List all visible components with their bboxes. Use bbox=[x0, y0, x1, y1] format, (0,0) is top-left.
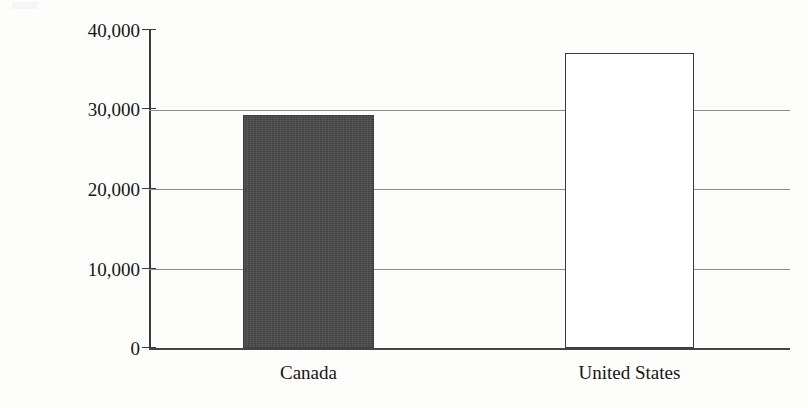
y-tick-label-0: 0 bbox=[30, 339, 140, 358]
bar-united-states[interactable] bbox=[565, 53, 694, 348]
category-label-united-states: United States bbox=[565, 362, 694, 384]
y-tick-label-40000: 40,000 bbox=[30, 21, 140, 40]
scan-artifact bbox=[12, 2, 38, 9]
bar-chart-figure: income per capita in 1998 C$ 40,000 30,0… bbox=[0, 0, 808, 408]
bar-canada[interactable] bbox=[243, 115, 374, 348]
category-label-canada: Canada bbox=[243, 362, 374, 384]
y-tick-label-20000: 20,000 bbox=[30, 180, 140, 199]
x-axis-baseline bbox=[149, 348, 790, 350]
y-tick-label-10000: 10,000 bbox=[30, 260, 140, 279]
y-tick-label-30000: 30,000 bbox=[30, 100, 140, 119]
plot-area bbox=[149, 30, 790, 348]
